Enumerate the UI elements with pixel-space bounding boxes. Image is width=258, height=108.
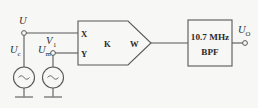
- label-v1-subscript: 1: [53, 41, 56, 48]
- label-multiplier-gain: K: [104, 39, 111, 49]
- carrier-source-symbol[interactable]: [14, 67, 35, 88]
- label-multiplier-input-y: Y: [81, 49, 88, 59]
- terminal-v1-node[interactable]: [51, 51, 56, 56]
- label-modulating-source-subscript: m: [46, 50, 52, 57]
- label-u-input: U: [19, 15, 28, 26]
- label-carrier-source-subscript: c: [18, 50, 21, 57]
- terminal-u-output[interactable]: [243, 41, 248, 46]
- terminal-u-input[interactable]: [22, 31, 27, 36]
- bandpass-filter-block[interactable]: [188, 20, 232, 66]
- modulating-source-symbol[interactable]: [43, 67, 64, 88]
- label-multiplier-output-w: W: [130, 39, 139, 49]
- multiplier-block[interactable]: [78, 21, 151, 65]
- label-u-output-subscript: O: [246, 30, 251, 37]
- circuit-diagram: U V 1 U c U m X Y K W 10.7 MHz BPF U O: [0, 0, 258, 108]
- label-filter-frequency: 10.7 MHz: [191, 32, 229, 42]
- label-multiplier-input-x: X: [81, 29, 88, 39]
- label-filter-type: BPF: [201, 47, 219, 57]
